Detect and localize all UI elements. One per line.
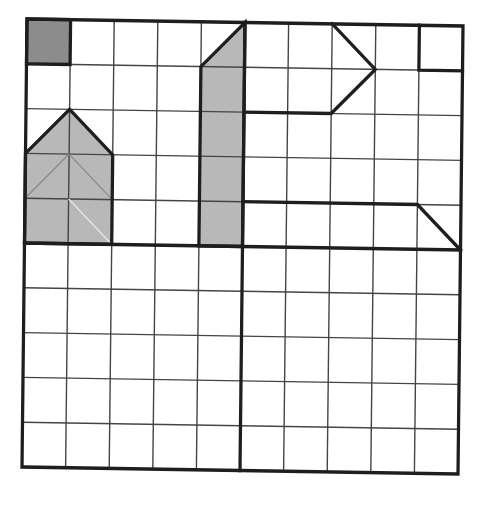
corner-square-outline — [419, 25, 463, 70]
grid-canvas — [22, 19, 463, 474]
shape-fills — [25, 19, 246, 247]
trapezoid-outline — [243, 202, 462, 250]
dark-square-fill — [27, 19, 71, 65]
grid-diagram — [0, 0, 485, 506]
tall-column-fill — [199, 22, 245, 247]
